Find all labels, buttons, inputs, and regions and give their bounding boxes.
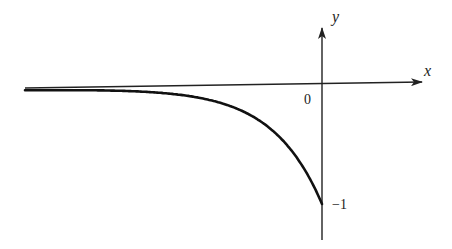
x-axis-label: x (423, 62, 431, 79)
chart: x y 0 −1 (0, 0, 452, 249)
x-axis (25, 82, 422, 88)
curve-series (25, 90, 322, 204)
origin-label: 0 (304, 92, 311, 107)
y-axis-label: y (330, 8, 340, 26)
y-tick-label-minus-1: −1 (332, 197, 347, 212)
